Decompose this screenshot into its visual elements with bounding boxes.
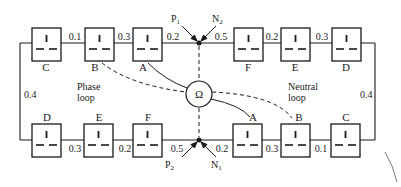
label-bottom-F: F [145,111,151,123]
resistance-top-2: 0.3 [118,31,131,42]
socket-bottom-A [233,124,262,157]
top-socket-row [32,28,361,61]
resistance-bottom-3: 0.5 [171,143,184,154]
scan-mark [385,152,397,182]
label-bottom-C: C [342,111,349,123]
label-top-D: D [342,61,350,73]
terminal-n2: N2 [212,13,223,26]
resistance-top-3: 0.2 [167,31,180,42]
neutral-loop-label-line1: Neutral [288,81,318,92]
resistance-right-side: 0.4 [360,89,373,100]
label-bottom-B: B [295,111,302,123]
bottom-socket-labels: D E F A B C [43,111,350,123]
label-bottom-E: E [96,111,103,123]
resistance-top-6: 0.3 [316,31,329,42]
socket-bottom-C [331,124,360,157]
socket-top-D [332,28,361,61]
resistance-top-4: 0.5 [215,31,228,42]
resistance-bottom-1: 0.3 [69,143,82,154]
resistance-bottom-5: 0.3 [266,143,279,154]
resistance-bottom-6: 0.1 [315,143,328,154]
ohmmeter: Ω [186,81,212,107]
phase-loop-label-line2: loop [77,92,95,103]
label-top-F: F [245,61,251,73]
top-socket-labels: C B A F E D [42,61,350,73]
socket-top-B [85,28,114,61]
label-top-A: A [139,61,147,73]
resistance-bottom-2: 0.2 [119,143,132,154]
label-bottom-D: D [43,111,51,123]
socket-top-F [234,28,263,61]
neutral-loop-label-line2: loop [288,92,306,103]
resistance-top-1: 0.1 [69,31,82,42]
ring-circuit-diagram: C B A F E D D E F A B C 0.1 0.3 0.2 0.5 … [0,0,401,187]
socket-bottom-D [32,124,61,157]
label-top-B: B [91,61,98,73]
label-top-C: C [42,61,49,73]
label-top-E: E [292,61,299,73]
resistance-top-5: 0.2 [266,31,279,42]
terminal-p2: P2 [165,159,175,172]
ohm-symbol: Ω [195,88,203,100]
resistance-left-side: 0.4 [24,89,37,100]
socket-bottom-F [133,124,162,157]
socket-top-C [32,28,61,61]
label-bottom-A: A [249,111,257,123]
terminal-n1: N1 [211,159,222,172]
socket-top-E [281,28,310,61]
socket-bottom-B [281,124,310,157]
phase-loop-label-line1: Phase [77,81,101,92]
socket-bottom-E [84,124,113,157]
terminal-p1: P1 [171,13,181,26]
resistance-bottom-4: 0.2 [216,143,229,154]
socket-top-A [133,28,162,61]
